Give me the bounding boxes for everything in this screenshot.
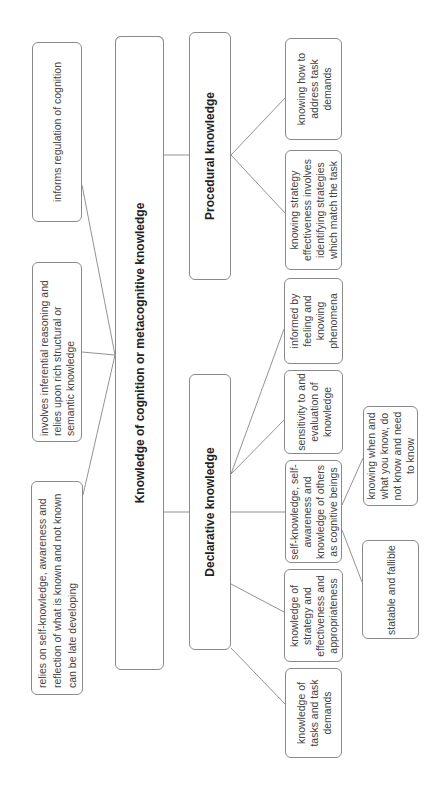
- declarative-child-sensitivity: sensitivity to and evaluation of knowled…: [284, 370, 343, 454]
- property-label: informs regulation of cognition: [51, 47, 64, 217]
- node-label: knowing how to address task demands: [294, 42, 333, 137]
- node-label: sensitivity to and evaluation of knowled…: [294, 372, 333, 452]
- subchild-statable-fallible: statable and fallible: [362, 540, 419, 639]
- property-label: relies on self-knowledge, awareness and …: [35, 488, 80, 688]
- node-label: knowing when and what you know, do not k…: [365, 409, 417, 504]
- node-label: self-knowledge, self-awareness and knowl…: [288, 462, 340, 562]
- declarative-label: Declarative knowledge: [204, 382, 217, 642]
- subchild-knowing-when: knowing when and what you know, do not k…: [363, 406, 418, 506]
- property-informs-regulation: informs regulation of cognition: [32, 42, 82, 222]
- procedural-label: Procedural knowledge: [204, 36, 217, 276]
- node-label: knowing strategy effectiveness involves …: [288, 153, 340, 268]
- procedural-knowledge-node: Procedural knowledge: [189, 32, 231, 280]
- property-self-knowledge: relies on self-knowledge, awareness and …: [31, 481, 83, 695]
- root-label: Knowledge of cognition or metacognitive …: [133, 53, 146, 653]
- declarative-child-self-knowledge: self-knowledge, self-awareness and knowl…: [285, 460, 342, 563]
- procedural-child-address-task: knowing how to address task demands: [285, 38, 342, 140]
- node-label: informed by feeling and knowing phenomen…: [288, 281, 340, 361]
- property-inferential-reasoning: involves inferential reasoning and relie…: [32, 262, 82, 442]
- procedural-child-strategy-effectiveness: knowing strategy effectiveness involves …: [285, 150, 342, 270]
- declarative-child-strategy-knowledge: knowledge of strategy and effectiveness …: [284, 569, 343, 662]
- declarative-child-feeling-knowing: informed by feeling and knowing phenomen…: [284, 278, 343, 364]
- root-node-body: Knowledge of cognition or metacognitive …: [115, 36, 164, 670]
- property-label: involves inferential reasoning and relie…: [38, 268, 77, 436]
- node-label: knowledge of strategy and effectiveness …: [288, 571, 340, 661]
- declarative-knowledge-node: Declarative knowledge: [189, 374, 231, 650]
- node-label: knowledge of tasks and task demands: [294, 671, 333, 756]
- declarative-child-task-knowledge: knowledge of tasks and task demands: [285, 668, 342, 758]
- node-label: statable and fallible: [384, 542, 397, 637]
